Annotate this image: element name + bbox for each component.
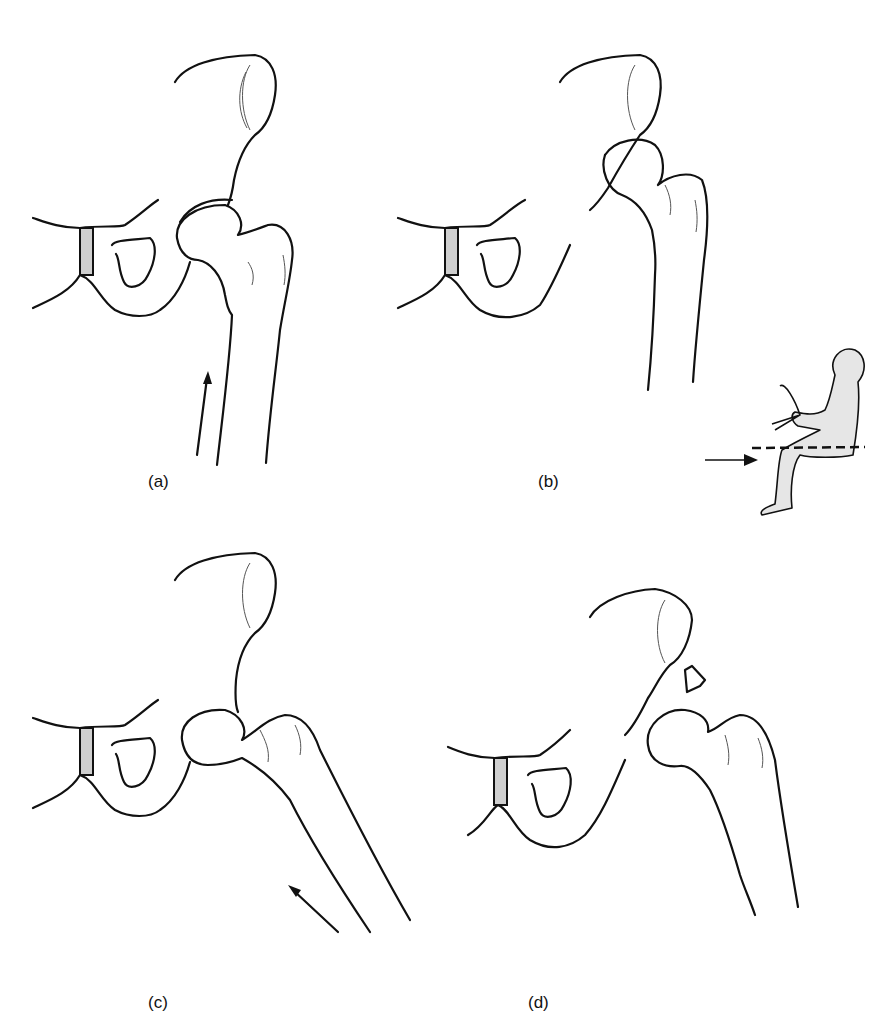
bone-fragment xyxy=(685,666,705,692)
hip-joint-illustration-d xyxy=(420,500,885,1013)
panel-c: (c) xyxy=(0,500,440,1013)
panel-label-c: (c) xyxy=(148,993,168,1013)
panel-a: (a) xyxy=(0,0,440,500)
panel-b: (b) xyxy=(390,0,740,500)
hip-joint-illustration-b xyxy=(390,0,740,500)
hip-joint-illustration-c xyxy=(0,500,440,1013)
panel-label-b: (b) xyxy=(538,472,559,492)
panel-label-a: (a) xyxy=(148,472,169,492)
panel-d: (d) xyxy=(420,500,885,1013)
seated-driver-inset xyxy=(700,330,880,520)
hip-joint-illustration-a xyxy=(0,0,440,500)
driver-silhouette xyxy=(700,330,880,520)
panel-label-d: (d) xyxy=(528,993,549,1013)
